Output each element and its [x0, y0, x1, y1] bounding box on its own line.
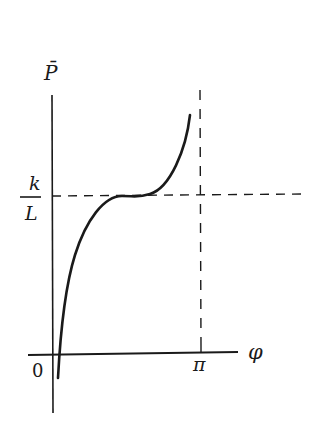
dashed-pi-line [200, 90, 201, 346]
diagram-canvas: P̄ k L 0 π φ [0, 0, 317, 436]
dashed-level-line [52, 194, 302, 196]
origin-label: 0 [32, 360, 43, 381]
x-axis-label: φ [248, 340, 263, 364]
y-axis [52, 95, 53, 413]
curve [58, 115, 190, 378]
pi-label: π [192, 353, 206, 375]
k-label: k [29, 172, 41, 194]
y-axis-label: P̄ [43, 60, 58, 85]
l-label: L [24, 202, 38, 224]
